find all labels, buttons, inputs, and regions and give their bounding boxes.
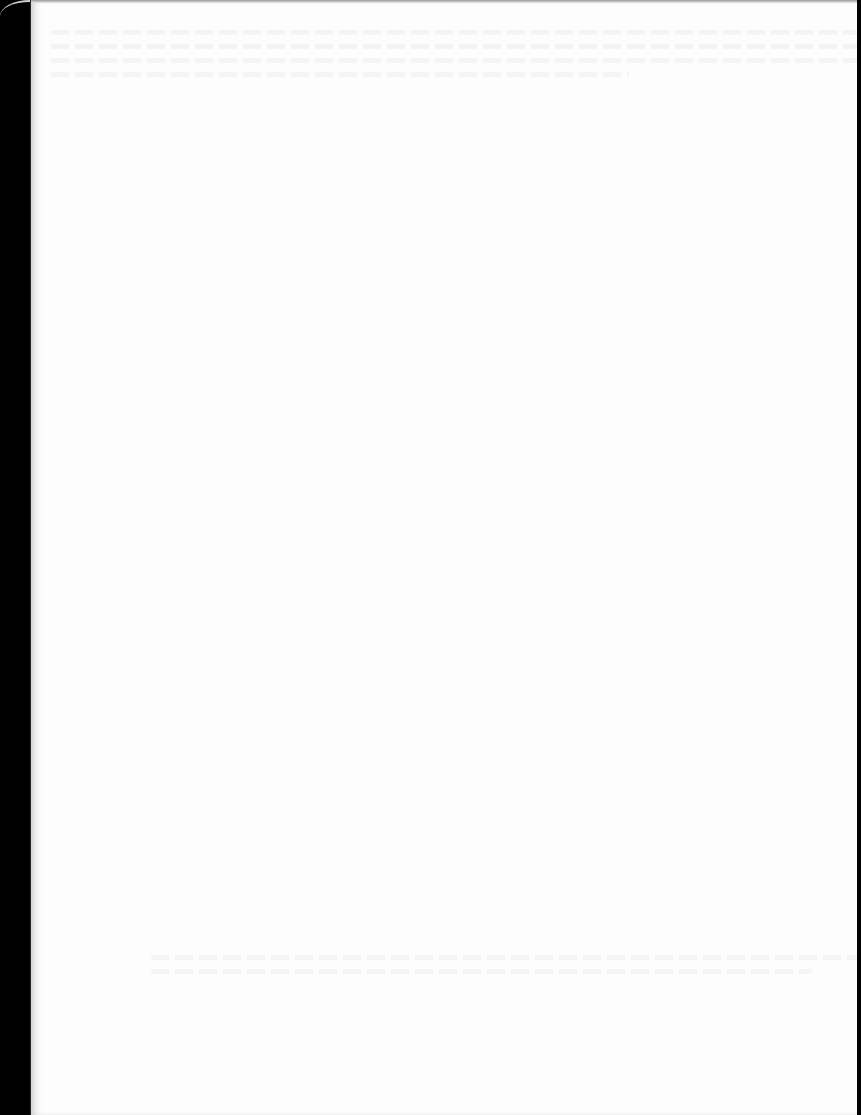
page-top-edge <box>31 0 857 3</box>
show-through-text-bottom <box>31 955 861 983</box>
scanner-bed-edge <box>0 0 34 1115</box>
show-through-text-top <box>31 30 861 86</box>
scanned-page <box>30 0 857 1115</box>
